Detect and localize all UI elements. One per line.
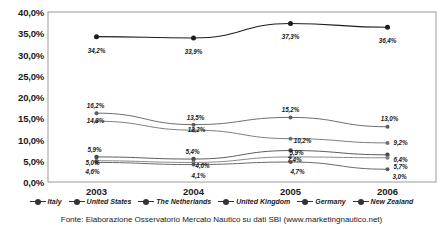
legend-item-label: Germany xyxy=(315,198,345,205)
data-label-united-states-2003: 16,2% xyxy=(87,102,104,109)
y-axis-tick-8: 40,0% xyxy=(0,7,44,18)
data-label-united-states-2004: 13,5% xyxy=(187,113,204,120)
y-axis-tick-1: 5,0% xyxy=(0,155,44,166)
y-axis-tick-4: 20,0% xyxy=(0,92,44,103)
data-label-new-zealand-2003: 4,6% xyxy=(86,168,100,175)
legend-item-united-kingdom[interactable]: United Kingdom xyxy=(218,198,290,205)
data-label-new-zealand-2006: 3,0% xyxy=(393,173,407,180)
data-label-italy-2006: 36,4% xyxy=(379,37,396,44)
data-label-the-netherlands-2005: 10,2% xyxy=(294,136,311,143)
x-axis-tick-2004: 2004 xyxy=(183,186,204,197)
y-axis-tick-7: 35,0% xyxy=(0,28,44,39)
data-label-united-kingdom-2003: 5,9% xyxy=(88,145,102,152)
legend-item-label: New Zealand xyxy=(371,198,414,205)
data-label-the-netherlands-2006: 9,2% xyxy=(394,138,408,145)
data-label-germany-2003: 5,0% xyxy=(86,158,100,165)
legend-marker-icon xyxy=(353,198,369,205)
chart-legend: ItalyUnited StatesThe NetherlandsUnited … xyxy=(0,198,443,205)
source-note: Fonte: Elaborazione Osservatorio Mercato… xyxy=(0,215,443,224)
legend-marker-icon xyxy=(30,198,46,205)
y-axis-tick-2: 10,0% xyxy=(0,134,44,145)
legend-item-united-states[interactable]: United States xyxy=(69,198,132,205)
data-label-the-netherlands-2004: 12,2% xyxy=(188,126,205,133)
legend-item-italy[interactable]: Italy xyxy=(30,198,62,205)
legend-item-the-netherlands[interactable]: The Netherlands xyxy=(138,198,211,205)
data-label-united-kingdom-2004: 5,4% xyxy=(186,148,200,155)
x-axis-tick-2003: 2003 xyxy=(86,186,107,197)
legend-marker-icon xyxy=(69,198,85,205)
y-axis-tick-6: 30,0% xyxy=(0,49,44,60)
legend-item-label: United Kingdom xyxy=(236,198,290,205)
data-label-united-kingdom-2006: 6,4% xyxy=(394,155,408,162)
data-label-the-netherlands-2003: 14,3% xyxy=(87,117,104,124)
data-label-new-zealand-2005: 4,7% xyxy=(291,168,305,175)
data-label-germany-2004: 4,6% xyxy=(196,162,210,169)
legend-marker-icon xyxy=(218,198,234,205)
legend-item-label: The Netherlands xyxy=(156,198,211,205)
y-axis-tick-3: 15,0% xyxy=(0,113,44,124)
legend-item-new-zealand[interactable]: New Zealand xyxy=(353,198,414,205)
legend-marker-icon xyxy=(297,198,313,205)
data-label-italy-2004: 33,9% xyxy=(185,47,202,54)
legend-item-label: United States xyxy=(87,198,132,205)
y-axis-tick-0: 0,0% xyxy=(0,177,44,188)
data-label-germany-2005: 5,9% xyxy=(290,148,304,155)
data-label-new-zealand-2004: 4,1% xyxy=(192,171,206,178)
legend-marker-icon xyxy=(138,198,154,205)
x-axis-tick-2005: 2005 xyxy=(280,186,301,197)
legend-item-label: Italy xyxy=(48,198,62,205)
y-axis-tick-5: 25,0% xyxy=(0,70,44,81)
chart-container: 0,0%5,0%10,0%15,0%20,0%25,0%30,0%35,0%40… xyxy=(0,0,443,233)
data-label-italy-2005: 37,3% xyxy=(282,33,299,40)
data-label-united-states-2006: 13,0% xyxy=(381,114,398,121)
x-axis-tick-2006: 2006 xyxy=(377,186,398,197)
legend-item-germany[interactable]: Germany xyxy=(297,198,345,205)
data-label-germany-2006: 5,7% xyxy=(394,162,408,169)
data-label-italy-2003: 34,2% xyxy=(88,46,105,53)
data-label-united-kingdom-2005: 7,4% xyxy=(288,155,302,162)
data-label-united-states-2005: 15,2% xyxy=(282,106,299,113)
